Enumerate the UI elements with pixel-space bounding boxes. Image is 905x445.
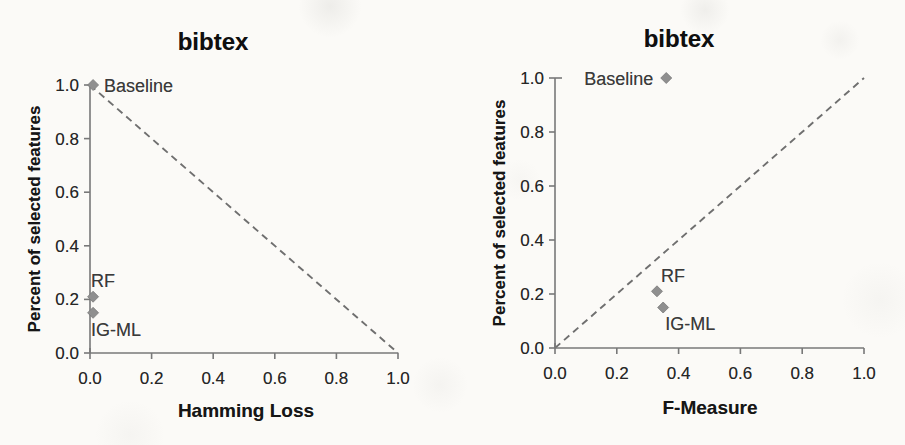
right-chart-xaxis-title: F-Measure [662, 397, 757, 418]
left-chart-xaxis-title: Hamming Loss [178, 400, 314, 421]
y-tick-label: 0.0 [520, 339, 544, 358]
ig-ml-data-point [658, 302, 669, 313]
x-tick-label: 0.4 [667, 364, 691, 383]
left-chart-title: bibtex [178, 28, 249, 55]
y-tick-label: 1.0 [520, 69, 544, 88]
x-tick-label: 1.0 [386, 369, 410, 388]
y-tick-label: 1.0 [55, 76, 79, 95]
x-tick-label: 1.0 [852, 364, 876, 383]
reference-dashed-line [555, 78, 864, 348]
ig-ml-point-label: IG-ML [665, 314, 715, 334]
x-tick-label: 0.8 [790, 364, 814, 383]
x-tick-label: 0.6 [263, 369, 287, 388]
rf-data-point [651, 286, 662, 297]
x-tick-label: 0.0 [543, 364, 567, 383]
scatter-plots-svg: bibtex Hamming Loss Percent of selected … [0, 0, 905, 445]
scanned-figure: bibtex Hamming Loss Percent of selected … [0, 0, 905, 445]
y-tick-label: 0.6 [55, 183, 79, 202]
x-tick-label: 0.2 [605, 364, 629, 383]
reference-dashed-line [90, 85, 398, 353]
rf-point-label: RF [91, 271, 115, 291]
left-chart-yaxis-title: Percent of selected features [25, 106, 44, 333]
x-tick-label: 0.8 [325, 369, 349, 388]
y-tick-label: 0.4 [55, 237, 79, 256]
y-tick-label: 0.2 [55, 290, 79, 309]
ig-ml-point-label: IG-ML [91, 320, 141, 340]
y-tick-label: 0.8 [520, 123, 544, 142]
baseline-data-point [661, 73, 672, 84]
left-chart-plot-area: 0.00.20.40.60.81.00.00.20.40.60.81.0Base… [55, 76, 409, 388]
right-chart-yaxis-title: Percent of selected features [490, 100, 509, 327]
x-tick-label: 0.2 [140, 369, 164, 388]
baseline-point-label: Baseline [104, 76, 173, 96]
y-tick-label: 0.6 [520, 177, 544, 196]
rf-point-label: RF [661, 266, 685, 286]
y-tick-label: 0.4 [520, 231, 544, 250]
x-tick-label: 0.0 [78, 369, 102, 388]
y-tick-label: 0.0 [55, 344, 79, 363]
baseline-point-label: Baseline [584, 69, 653, 89]
x-tick-label: 0.6 [729, 364, 753, 383]
right-chart-plot-area: 0.00.20.40.60.81.00.00.20.40.60.81.0Base… [520, 69, 875, 383]
y-tick-label: 0.8 [55, 130, 79, 149]
y-tick-label: 0.2 [520, 285, 544, 304]
right-chart-title: bibtex [644, 25, 715, 52]
x-tick-label: 0.4 [201, 369, 225, 388]
